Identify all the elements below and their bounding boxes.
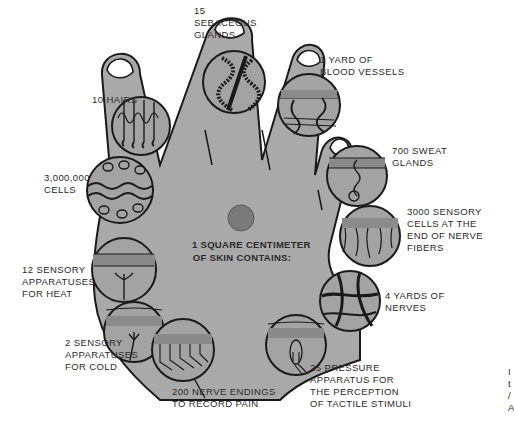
inset-sweat-glands: [327, 146, 387, 206]
inset-sensory-cells: [340, 206, 400, 266]
inset-blood-vessels: [278, 74, 340, 136]
label-hairs: 10 HAIRS: [92, 94, 137, 106]
cropped-edge-text: I t / A: [508, 366, 514, 414]
label-blood-vessels: 1 YARD OF BLOOD VESSELS: [320, 54, 404, 78]
label-cells: 3,000,000 CELLS: [44, 172, 90, 196]
label-cold: 2 SENSORY APPARATUSES FOR COLD: [65, 337, 138, 373]
skin-sample-dot: [228, 205, 254, 231]
label-sensory-cells: 3000 SENSORY CELLS AT THE END OF NERVE F…: [407, 206, 483, 254]
label-sweat-glands: 700 SWEAT GLANDS: [392, 145, 447, 169]
inset-cells: [87, 157, 153, 223]
inset-nerves: [320, 271, 380, 331]
label-pain: 200 NERVE ENDINGS TO RECORD PAIN: [172, 386, 276, 410]
label-sebaceous: 15 SEBACEOUS GLANDS: [194, 5, 257, 41]
label-heat: 12 SENSORY APPARATUSES FOR HEAT: [22, 264, 95, 300]
label-nerves: 4 YARDS OF NERVES: [385, 290, 445, 314]
inset-heat-receptor: [92, 238, 156, 302]
center-title: 1 SQUARE CENTIMETER OF SKIN CONTAINS:: [192, 238, 292, 264]
label-pressure: 25 PRESSURE APPARATUS FOR THE PERCEPTION…: [310, 362, 411, 410]
inset-sebaceous-glands: [203, 51, 265, 113]
